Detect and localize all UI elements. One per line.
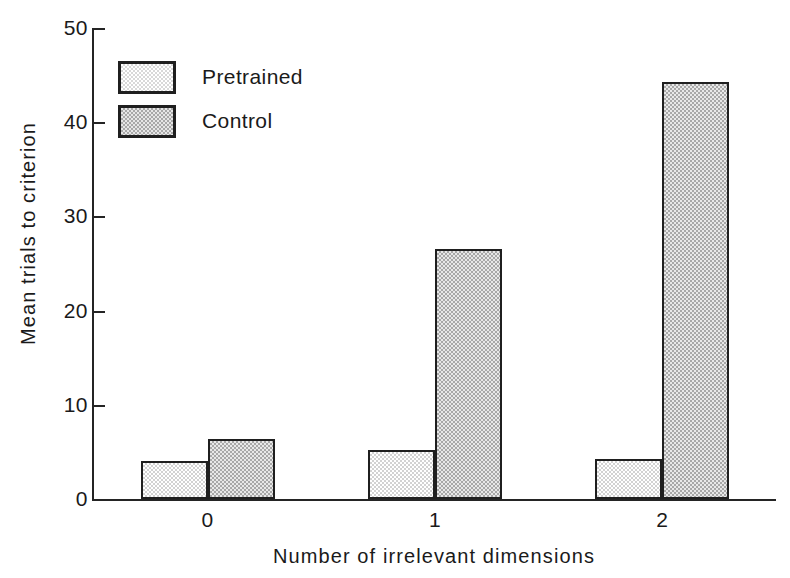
bar-control-cat-2 bbox=[662, 82, 729, 499]
bar-pretrained-cat-1 bbox=[368, 450, 435, 499]
medium-gray-stipple-swatch bbox=[118, 105, 176, 138]
x-category-label-0: 0 bbox=[168, 508, 248, 532]
bar-pretrained-cat-0 bbox=[141, 461, 208, 499]
y-tick-mark bbox=[94, 216, 105, 218]
y-tick-mark bbox=[94, 122, 105, 124]
y-axis-line bbox=[92, 28, 94, 501]
legend-label: Control bbox=[202, 109, 273, 133]
bar-control-cat-0 bbox=[208, 439, 275, 499]
bar-pretrained-cat-2 bbox=[595, 459, 662, 499]
bar-chart: 01020304050 Mean trials to criterion 012… bbox=[0, 0, 790, 578]
chart-legend: PretrainedControl bbox=[118, 58, 303, 146]
y-tick-label: 20 bbox=[48, 300, 88, 321]
y-tick-label: 40 bbox=[48, 111, 88, 132]
y-tick-label: 10 bbox=[48, 394, 88, 415]
y-tick-mark bbox=[94, 311, 105, 313]
y-tick-mark bbox=[94, 28, 105, 30]
y-tick-label: 0 bbox=[48, 488, 88, 509]
legend-item-control: Control bbox=[118, 102, 303, 140]
x-axis-line bbox=[92, 499, 776, 501]
x-axis-title: Number of irrelevant dimensions bbox=[92, 545, 776, 568]
y-axis-title: Mean trials to criterion bbox=[17, 74, 40, 394]
x-category-label-2: 2 bbox=[622, 508, 702, 532]
x-category-label-1: 1 bbox=[395, 508, 475, 532]
legend-label: Pretrained bbox=[202, 65, 303, 89]
y-tick-mark bbox=[94, 405, 105, 407]
y-tick-mark bbox=[94, 499, 105, 501]
y-tick-label: 30 bbox=[48, 205, 88, 226]
y-tick-label: 50 bbox=[48, 17, 88, 38]
light-gray-stipple-swatch bbox=[118, 61, 176, 94]
bar-control-cat-1 bbox=[435, 249, 502, 499]
legend-item-pretrained: Pretrained bbox=[118, 58, 303, 96]
